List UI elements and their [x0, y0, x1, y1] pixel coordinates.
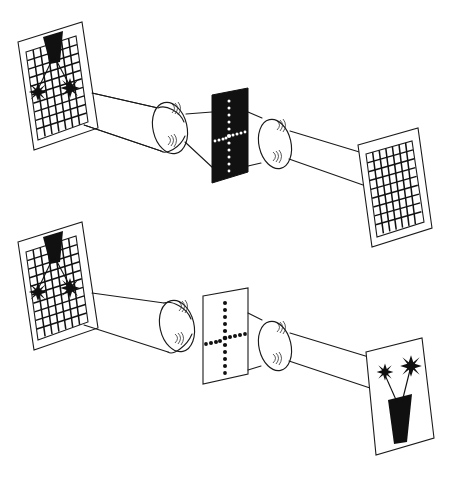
figure-canvas: Abbe imaging / spatial filtering of a gr… — [0, 0, 450, 477]
filter-plane-plate — [203, 288, 248, 384]
lens-2-bottom — [254, 318, 296, 374]
image-panel-top — [358, 128, 432, 247]
image-panel-bottom — [366, 338, 434, 455]
beam-lens2-to-image-top — [289, 131, 366, 185]
lens-1-bottom — [155, 297, 200, 355]
row-bottom — [18, 222, 434, 455]
row-top — [18, 22, 432, 247]
beam-lens2-to-image-bottom — [289, 333, 372, 388]
object-panel-bottom — [18, 222, 98, 350]
object-panel-top — [18, 22, 98, 150]
optics-diagram — [0, 0, 450, 477]
fourier-plane-plate — [212, 88, 248, 183]
lens-1-top — [84, 93, 192, 157]
beam-lens1-to-plate-top — [185, 112, 213, 168]
